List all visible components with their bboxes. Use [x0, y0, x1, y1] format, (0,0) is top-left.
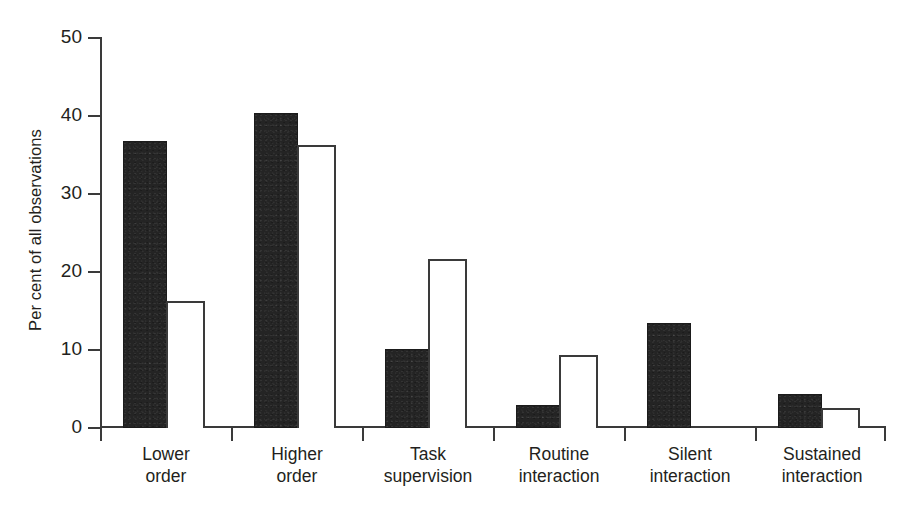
- y-tick-label-30: 30: [36, 183, 82, 202]
- x-tick-separator-5: [755, 428, 757, 441]
- x-tick-separator-2: [362, 428, 364, 441]
- bar-dark-higher-order: [254, 113, 298, 428]
- x-category-line-1: Sustained: [756, 443, 888, 465]
- x-category-label-task-supervision: Task supervision: [363, 443, 493, 488]
- x-category-line-2: interaction: [756, 465, 888, 487]
- x-tick-separator-3: [493, 428, 495, 441]
- bar-dark-sustained-interaction: [778, 394, 822, 428]
- bar-open-task-supervision: [428, 259, 467, 428]
- x-category-line-2: interaction: [494, 465, 624, 487]
- x-category-label-silent-interaction: Silent interaction: [625, 443, 755, 488]
- bar-open-sustained-interaction: [821, 408, 860, 428]
- y-tick-label-20: 20: [36, 261, 82, 280]
- x-category-line-2: interaction: [625, 465, 755, 487]
- x-tick-separator-4: [624, 428, 626, 441]
- y-tick-label-40: 40: [36, 105, 82, 124]
- x-category-line-1: Higher: [232, 443, 362, 465]
- y-tick-mark-40: [88, 115, 100, 117]
- x-tick-separator-0: [100, 428, 102, 441]
- x-category-line-2: supervision: [363, 465, 493, 487]
- y-tick-mark-30: [88, 193, 100, 195]
- bar-dark-silent-interaction: [647, 323, 691, 428]
- y-tick-mark-0: [88, 427, 100, 429]
- y-tick-mark-50: [88, 37, 100, 39]
- x-tick-separator-1: [231, 428, 233, 441]
- bar-chart-figure: Per cent of all observations 0 10 20 30 …: [0, 0, 918, 506]
- x-category-line-1: Lower: [101, 443, 231, 465]
- x-category-label-sustained-interaction: Sustained interaction: [756, 443, 888, 488]
- bar-open-lower-order: [166, 301, 205, 428]
- y-tick-mark-10: [88, 349, 100, 351]
- y-axis-line: [100, 37, 102, 428]
- bar-dark-routine-interaction: [516, 405, 560, 428]
- bar-dark-lower-order: [123, 141, 167, 428]
- y-tick-label-0: 0: [36, 417, 82, 436]
- y-tick-mark-20: [88, 271, 100, 273]
- x-category-line-2: order: [101, 465, 231, 487]
- bar-open-higher-order: [297, 145, 336, 428]
- bar-open-routine-interaction: [559, 355, 598, 428]
- x-category-label-routine-interaction: Routine interaction: [494, 443, 624, 488]
- x-category-label-higher-order: Higher order: [232, 443, 362, 488]
- y-tick-label-10: 10: [36, 339, 82, 358]
- x-category-line-1: Routine: [494, 443, 624, 465]
- x-tick-separator-6: [884, 428, 886, 441]
- y-axis-title: Per cent of all observations: [18, 10, 52, 450]
- x-category-line-2: order: [232, 465, 362, 487]
- x-category-label-lower-order: Lower order: [101, 443, 231, 488]
- bar-dark-task-supervision: [385, 349, 429, 428]
- x-category-line-1: Task: [363, 443, 493, 465]
- x-category-line-1: Silent: [625, 443, 755, 465]
- y-tick-label-50: 50: [36, 27, 82, 46]
